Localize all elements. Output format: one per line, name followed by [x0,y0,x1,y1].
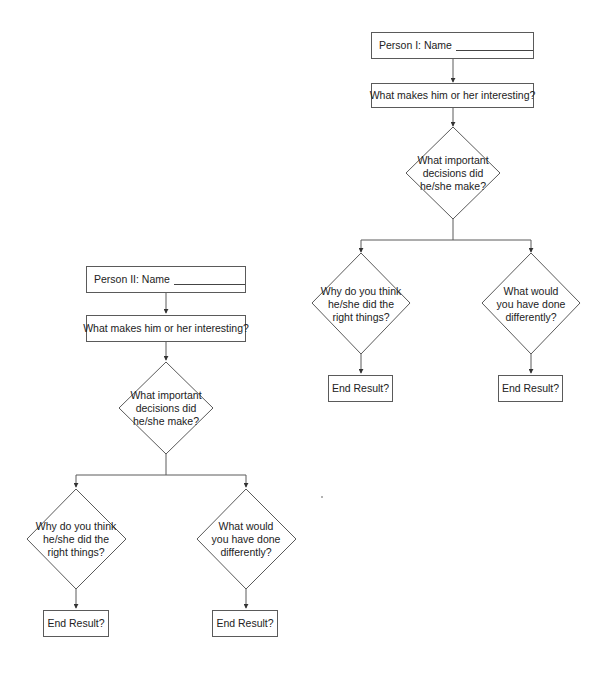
left-result-label: End Result? [47,617,104,630]
stray-mark [321,496,323,498]
person-name-label: Person I: Name [379,39,452,52]
left-diamond-label: Why do you think he/she did the right th… [311,285,411,324]
decision-diamond-label: What important decisions did he/she make… [116,389,216,428]
person-name-label: Person II: Name [94,273,170,286]
right-diamond-label: What would you have done differently? [481,285,581,324]
right-result-label: End Result? [216,617,273,630]
right-result-box: End Result? [212,610,278,637]
person-name-box: Person II: Name [86,266,246,293]
right-diamond-label: What would you have done differently? [196,520,296,559]
decision-diamond-label: What important decisions did he/she make… [403,154,503,193]
left-result-box: End Result? [328,375,393,402]
person-name-box: Person I: Name [371,32,534,59]
name-blank-line[interactable] [456,40,533,51]
interest-box: What makes him or her interesting? [86,315,246,342]
interest-label: What makes him or her interesting? [83,322,249,335]
right-result-box: End Result? [498,375,563,402]
left-result-box: End Result? [43,610,109,637]
interest-label: What makes him or her interesting? [370,89,536,102]
left-diamond-label: Why do you think he/she did the right th… [26,520,126,559]
right-result-label: End Result? [502,382,559,395]
name-blank-line[interactable] [174,274,245,285]
interest-box: What makes him or her interesting? [371,83,534,108]
left-result-label: End Result? [332,382,389,395]
flowchart-diagram: Person I: Name What makes him or her int… [0,0,609,677]
